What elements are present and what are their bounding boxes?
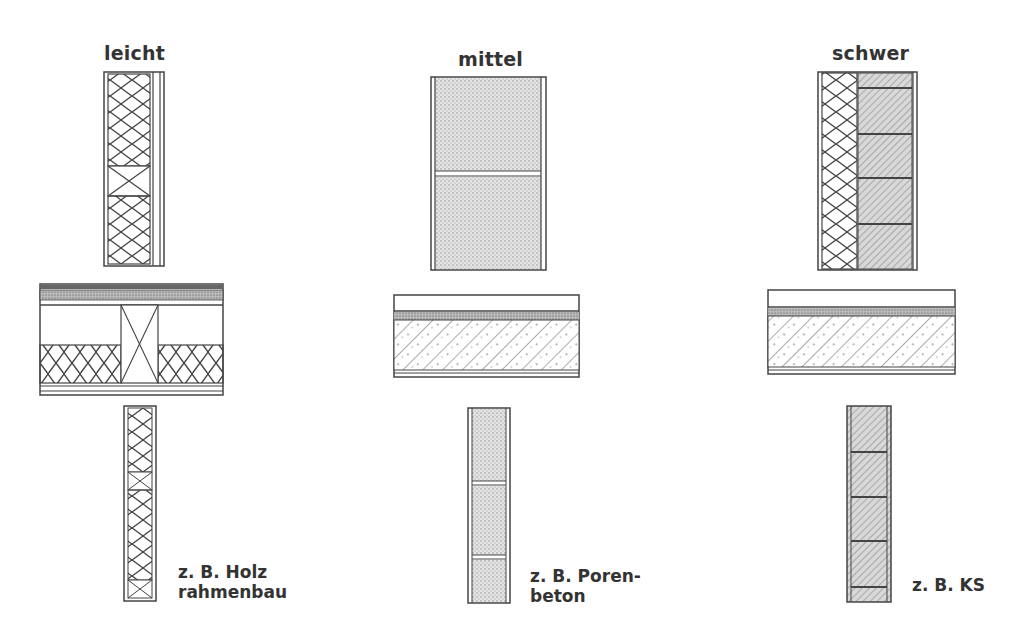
example-label-heavy: z. B. KS: [912, 575, 985, 595]
column-title-heavy: schwer: [832, 42, 909, 64]
example-line-2: rahmenbau: [178, 582, 287, 602]
example-line-1: z. B. Holz: [178, 562, 287, 582]
example-label-light: z. B. Holz rahmenbau: [178, 562, 287, 602]
example-line-1: z. B. Poren-: [530, 566, 641, 586]
medium-floor-section: [394, 295, 579, 377]
example-line-1: z. B. KS: [912, 575, 985, 595]
medium-wall-section: [431, 77, 546, 270]
heavy-floor-section: [768, 290, 955, 374]
column-title-medium: mittel: [458, 48, 523, 70]
light-floor-section: [40, 284, 223, 395]
heavy-wall-section: [818, 72, 917, 270]
light-wall-section: [104, 72, 164, 266]
light-inner-wall-section: [124, 406, 156, 601]
column-title-light: leicht: [104, 42, 165, 64]
medium-inner-wall-section: [468, 408, 510, 603]
construction-types-diagram: [0, 0, 1017, 636]
heavy-inner-wall-section: [847, 406, 891, 602]
example-label-medium: z. B. Poren- beton: [530, 566, 641, 606]
example-line-2: beton: [530, 586, 641, 606]
